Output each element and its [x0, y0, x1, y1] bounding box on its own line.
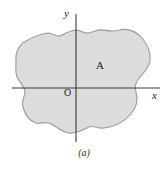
x-axis-label: x	[152, 90, 157, 101]
figure-canvas	[0, 0, 168, 170]
figure-container: y x O A (a)	[0, 0, 168, 170]
figure-caption: (a)	[0, 148, 168, 158]
region-a-blob	[16, 29, 150, 133]
y-axis-label: y	[64, 8, 69, 19]
origin-label: O	[64, 88, 71, 98]
region-label-a: A	[96, 60, 104, 71]
